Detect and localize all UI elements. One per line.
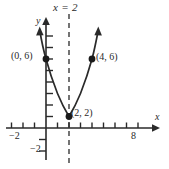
y-axis-name-label: y	[36, 16, 40, 26]
x-axis-ticks	[12, 123, 139, 129]
x-tick-label-negative-2: −2	[9, 131, 20, 141]
x-axis	[6, 124, 160, 132]
graph-canvas	[0, 0, 169, 169]
point-label-4-6: (4, 6)	[96, 52, 118, 62]
point-4-6-marker	[89, 56, 96, 63]
y-tick-label-negative-2: −2	[30, 144, 41, 154]
vertex-label-2-2: (2, 2)	[71, 108, 93, 118]
x-axis-name-label: x	[155, 112, 159, 122]
graph-figure: x = 2 y x (0, 6) (4, 6) (2, 2) −2 8 −2	[0, 0, 169, 169]
point-0-6-marker	[43, 56, 50, 63]
symmetry-line-label: x = 2	[53, 2, 78, 13]
point-label-0-6: (0, 6)	[11, 51, 33, 61]
x-tick-label-8: 8	[131, 131, 136, 141]
y-axis	[42, 17, 50, 160]
